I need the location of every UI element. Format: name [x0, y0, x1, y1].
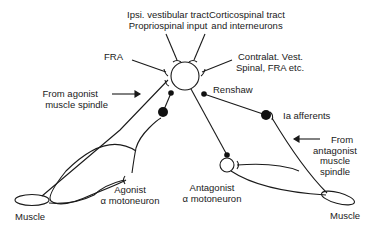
ia-interneuron-circle	[171, 62, 199, 90]
agonist-motoneuron-label: Agonist α motoneuron	[90, 185, 170, 206]
label-line: muscle	[300, 156, 370, 167]
left-muscle-shape	[15, 195, 49, 206]
antagonist-afferent-line	[237, 164, 299, 171]
from-agonist-label: From agonist muscle spindle	[40, 89, 108, 110]
label-line: Corticospinal tract	[192, 10, 302, 21]
ia-afferents-label: Ia afferents	[283, 111, 330, 122]
synapse-fork-icon	[173, 61, 181, 63]
label-line: Spinal, FRA etc.	[236, 63, 304, 74]
inhibitory-axon-to-antagonist	[191, 89, 227, 155]
label-line: spindle	[300, 167, 370, 178]
right-muscle-label: Muscle	[330, 211, 360, 222]
antagonist-motoneuron-circle	[220, 158, 234, 172]
small-terminal-dot	[168, 90, 174, 96]
label-line: From	[300, 135, 370, 146]
synapse-fork-icon	[201, 69, 205, 76]
corticospinal-label: Corticospinal tract and interneurons	[192, 10, 302, 31]
label-line: Agonist	[90, 185, 170, 196]
label-line: muscle spindle	[40, 100, 108, 111]
label-line: α motoneuron	[90, 196, 170, 207]
contralat-input-line	[202, 60, 232, 72]
left-inhibitory-dot	[158, 107, 168, 117]
renshaw-label: Renshaw	[213, 85, 253, 96]
label-line: and interneurons	[192, 21, 302, 32]
antagonist-terminal-dot	[224, 152, 230, 158]
synapse-fork-icon	[124, 176, 126, 184]
arrowhead-icon	[294, 136, 299, 142]
label-line: Antagonist	[168, 183, 256, 194]
antagonist-motoneuron-label: Antagonist α motoneuron	[168, 183, 256, 204]
label-line: Contralat. Vest.	[236, 52, 304, 63]
fra-label: FRA	[104, 52, 123, 63]
right-muscle-shape	[320, 188, 356, 207]
left-muscle-label: Muscle	[15, 212, 45, 223]
right-inhibitory-dot	[261, 110, 271, 120]
renshaw-axon	[204, 94, 266, 115]
arrowhead-icon	[135, 91, 140, 97]
synapse-fork-icon	[189, 61, 197, 63]
fra-input-line	[132, 60, 166, 72]
label-line: α motoneuron	[168, 194, 256, 205]
agonist-afferent-loop	[132, 118, 161, 173]
contralat-label: Contralat. Vest. Spinal, FRA etc.	[236, 52, 304, 73]
renshaw-terminal-dot	[201, 91, 207, 97]
from-antagonist-label: From antagonist muscle spindle	[300, 135, 370, 177]
label-line: From agonist	[40, 89, 108, 100]
synapse-fork-icon	[164, 69, 168, 76]
ipsi-input-line	[166, 34, 177, 60]
corticospinal-input-line	[194, 34, 205, 60]
